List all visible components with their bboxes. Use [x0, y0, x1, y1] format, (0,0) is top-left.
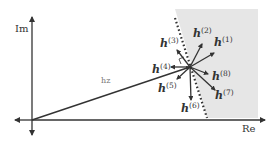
main-vector-label: hz: [101, 76, 110, 85]
vector-group: h(1)h(2)h(3)h(4)h(5)h(6)h(7)h(8): [152, 26, 234, 115]
vector-h6: [190, 67, 191, 100]
vector-label-h6: h(6): [181, 101, 200, 115]
main-vector: [32, 67, 190, 120]
vector-label-h5: h(5): [158, 81, 177, 95]
complex-plane-diagram: Im Re hz h(1)h(2)h(3)h(4)h(5)h(6)h(7)h(8…: [0, 0, 277, 143]
vector-label-h3: h(3): [160, 36, 179, 50]
real-axis-label: Re: [242, 123, 256, 134]
imag-axis-label: Im: [15, 23, 29, 34]
